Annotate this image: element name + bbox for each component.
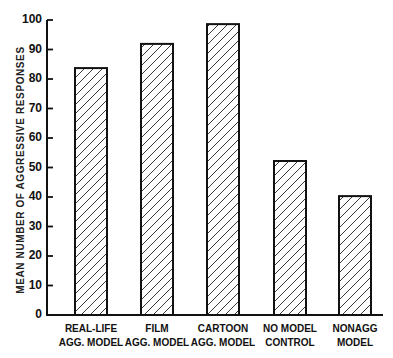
y-tick-label: 100 bbox=[12, 12, 42, 26]
bars-group bbox=[75, 24, 371, 315]
y-tick-label: 20 bbox=[12, 248, 42, 262]
plot-area bbox=[0, 0, 393, 358]
y-tick-label: 40 bbox=[12, 189, 42, 203]
bar bbox=[141, 44, 173, 315]
y-tick-label: 10 bbox=[12, 278, 42, 292]
bar bbox=[75, 68, 107, 315]
y-tick-label: 30 bbox=[12, 219, 42, 233]
bar bbox=[207, 24, 239, 315]
y-tick-label: 0 bbox=[12, 307, 42, 321]
y-tick-label: 60 bbox=[12, 130, 42, 144]
y-tick-label: 50 bbox=[12, 160, 42, 174]
bar-chart: MEAN NUMBER OF AGGRESSIVE RESPONSES 0102… bbox=[0, 0, 393, 358]
bar bbox=[274, 161, 306, 315]
y-tick-label: 80 bbox=[12, 71, 42, 85]
y-tick-label: 90 bbox=[12, 42, 42, 56]
x-category-label: NONAGG MODEL bbox=[315, 322, 393, 350]
bar bbox=[339, 196, 371, 315]
y-tick-label: 70 bbox=[12, 101, 42, 115]
